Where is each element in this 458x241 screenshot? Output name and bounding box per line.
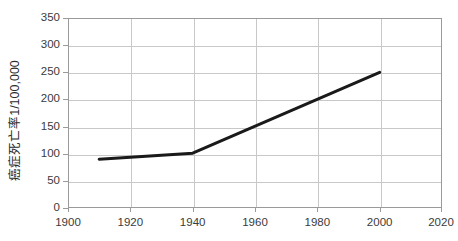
x-tick-mark bbox=[441, 208, 442, 212]
y-tick-mark bbox=[63, 181, 68, 182]
gridline-horizontal bbox=[69, 100, 441, 101]
gridline-horizontal bbox=[69, 46, 441, 47]
plot-area bbox=[68, 18, 442, 208]
y-tick-mark bbox=[63, 127, 68, 128]
y-tick-label: 200 bbox=[28, 92, 60, 104]
gridline-horizontal bbox=[69, 155, 441, 156]
y-tick-label: 0 bbox=[28, 201, 60, 213]
gridline-horizontal bbox=[69, 73, 441, 74]
gridline-vertical bbox=[256, 19, 257, 207]
x-tick-mark bbox=[130, 208, 131, 212]
gridline-horizontal bbox=[69, 128, 441, 129]
x-tick-label: 2020 bbox=[416, 216, 458, 228]
x-tick-label: 1960 bbox=[230, 216, 280, 228]
y-tick-label: 250 bbox=[28, 65, 60, 77]
x-tick-label: 1980 bbox=[292, 216, 342, 228]
y-tick-label: 150 bbox=[28, 120, 60, 132]
x-tick-mark bbox=[317, 208, 318, 212]
line-chart-figure: 癌症死亡率1/100,000 350 300 250 200 150 100 5… bbox=[0, 0, 458, 241]
gridline-vertical bbox=[318, 19, 319, 207]
gridline-horizontal bbox=[69, 182, 441, 183]
x-tick-mark bbox=[68, 208, 69, 212]
y-tick-label: 100 bbox=[28, 147, 60, 159]
y-tick-label: 50 bbox=[28, 174, 60, 186]
x-tick-label: 2000 bbox=[355, 216, 405, 228]
gridline-vertical bbox=[381, 19, 382, 207]
x-tick-mark bbox=[193, 208, 194, 212]
x-tick-label: 1920 bbox=[105, 216, 155, 228]
y-tick-mark bbox=[63, 99, 68, 100]
y-tick-label: 300 bbox=[28, 38, 60, 50]
y-tick-label: 350 bbox=[28, 11, 60, 23]
y-tick-mark bbox=[63, 72, 68, 73]
gridline-vertical bbox=[131, 19, 132, 207]
x-tick-mark bbox=[255, 208, 256, 212]
x-tick-mark bbox=[380, 208, 381, 212]
x-tick-label: 1940 bbox=[168, 216, 218, 228]
y-tick-mark bbox=[63, 45, 68, 46]
y-axis-title: 癌症死亡率1/100,000 bbox=[0, 0, 26, 241]
y-tick-mark bbox=[63, 154, 68, 155]
y-tick-mark bbox=[63, 18, 68, 19]
x-tick-label: 1900 bbox=[43, 216, 93, 228]
gridline-vertical bbox=[194, 19, 195, 207]
